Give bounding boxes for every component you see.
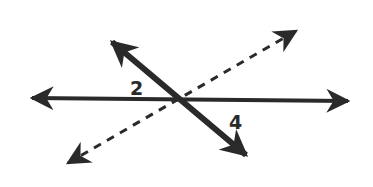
angle-label-4: 4 xyxy=(229,111,242,133)
horizontal-line xyxy=(32,98,348,101)
intersecting-lines-diagram: 2 4 xyxy=(0,0,373,187)
angle-label-2: 2 xyxy=(130,77,143,99)
